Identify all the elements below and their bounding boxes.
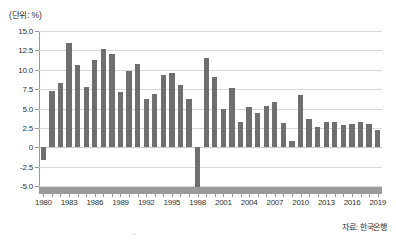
- y-axis-tick-label: 7.5: [2, 85, 33, 94]
- x-axis-tick-mark: [369, 194, 370, 197]
- bar: [49, 91, 54, 147]
- y-axis-tick-label: 12.5: [2, 46, 33, 55]
- x-axis-tick-label: 1995: [164, 198, 181, 207]
- x-axis-tick-mark: [52, 194, 53, 197]
- unit-label: (단위: %): [9, 8, 42, 20]
- gridline: [39, 167, 382, 168]
- bar: [246, 107, 251, 147]
- y-axis-tick-labels: 15.012.510.07.55.02.50-2.5-5.0: [0, 31, 33, 186]
- y-axis-tick-mark: [35, 128, 39, 129]
- x-axis-tick-mark: [78, 194, 79, 197]
- plot-area: [39, 31, 382, 186]
- bar: [161, 75, 166, 147]
- y-axis-tick-label: -5.0: [2, 182, 33, 191]
- y-axis-tick-mark: [35, 147, 39, 148]
- bar: [341, 125, 346, 147]
- x-axis-tick-label: 2010: [292, 198, 309, 207]
- x-axis-tick-label: 1983: [61, 198, 78, 207]
- bar: [221, 109, 226, 148]
- x-axis-tick-mark: [198, 194, 199, 197]
- x-axis-tick-label: 1986: [86, 198, 103, 207]
- bar: [135, 64, 140, 148]
- bar: [66, 43, 71, 147]
- x-axis-tick-mark: [309, 194, 310, 197]
- y-axis-tick-mark: [35, 50, 39, 51]
- gridline: [39, 128, 382, 129]
- bar: [349, 124, 354, 147]
- x-axis-tick-mark: [301, 194, 302, 197]
- bar: [306, 119, 311, 148]
- y-axis-tick-mark: [35, 109, 39, 110]
- x-axis-tick-label: 2019: [369, 198, 386, 207]
- y-axis-tick-label: 5.0: [2, 104, 33, 113]
- y-axis-tick-mark: [35, 31, 39, 32]
- x-axis-tick-mark: [112, 194, 113, 197]
- gridline: [39, 70, 382, 71]
- bar: [332, 122, 337, 147]
- x-axis-tick-mark: [189, 194, 190, 197]
- gridline: [39, 147, 382, 148]
- x-axis-tick-mark: [352, 194, 353, 197]
- x-axis-tick-mark: [69, 194, 70, 197]
- bar: [186, 99, 191, 147]
- x-axis-tick-mark: [215, 194, 216, 197]
- x-axis-tick-mark: [138, 194, 139, 197]
- x-axis-tick-mark: [103, 194, 104, 197]
- bar: [144, 99, 149, 147]
- x-axis-tick-mark: [283, 194, 284, 197]
- x-axis-tick-mark: [335, 194, 336, 197]
- x-axis-tick-label: 2004: [241, 198, 258, 207]
- bar: [212, 77, 217, 148]
- y-axis-tick-label: 10.0: [2, 65, 33, 74]
- bar: [118, 92, 123, 147]
- bar: [315, 127, 320, 147]
- bar: [101, 49, 106, 147]
- x-axis-tick-mark: [180, 194, 181, 197]
- x-axis-tick-mark: [232, 194, 233, 197]
- x-axis-tick-label: 1980: [35, 198, 52, 207]
- x-axis-tick-labels: 1980198319861989199219951998200120042007…: [39, 198, 382, 210]
- x-axis-tick-mark: [120, 194, 121, 197]
- x-axis-tick-mark: [275, 194, 276, 197]
- bar: [264, 106, 269, 147]
- x-axis-band: [39, 187, 382, 194]
- bar: [58, 83, 63, 147]
- x-axis-tick-mark: [292, 194, 293, 197]
- x-axis-tick-mark: [146, 194, 147, 197]
- y-axis-tick-mark: [35, 167, 39, 168]
- bar: [126, 71, 131, 148]
- bar: [255, 113, 260, 147]
- x-axis-tick-mark: [266, 194, 267, 197]
- y-axis-tick-mark: [35, 89, 39, 90]
- bar: [109, 54, 114, 147]
- x-axis-tick-mark: [86, 194, 87, 197]
- source-note: 자료: 한국은행: [342, 221, 387, 232]
- bar: [178, 85, 183, 147]
- gridline: [39, 31, 382, 32]
- gridline: [39, 89, 382, 90]
- x-axis-tick-label: 1992: [138, 198, 155, 207]
- bar: [92, 60, 97, 148]
- x-axis-tick-mark: [378, 194, 379, 197]
- y-axis-tick-label: 15.0: [2, 27, 33, 36]
- bar: [375, 130, 380, 147]
- x-axis-tick-mark: [95, 194, 96, 197]
- y-axis-tick-label: 2.5: [2, 123, 33, 132]
- x-axis-tick-mark: [343, 194, 344, 197]
- bar: [75, 65, 80, 147]
- x-axis-tick-label: 2013: [318, 198, 335, 207]
- bar: [152, 94, 157, 147]
- bar: [289, 141, 294, 147]
- bar: [324, 122, 329, 147]
- y-axis-tick-label: -2.5: [2, 162, 33, 171]
- x-axis-tick-mark: [43, 194, 44, 197]
- y-axis-tick-label: 0: [2, 143, 33, 152]
- x-axis-tick-label: 2001: [215, 198, 232, 207]
- x-axis-tick-mark: [223, 194, 224, 197]
- bar: [298, 95, 303, 148]
- x-axis-tick-mark: [249, 194, 250, 197]
- gridline: [39, 50, 382, 51]
- x-axis-tick-label: 1998: [189, 198, 206, 207]
- bar: [84, 87, 89, 147]
- x-axis-tick-mark: [155, 194, 156, 197]
